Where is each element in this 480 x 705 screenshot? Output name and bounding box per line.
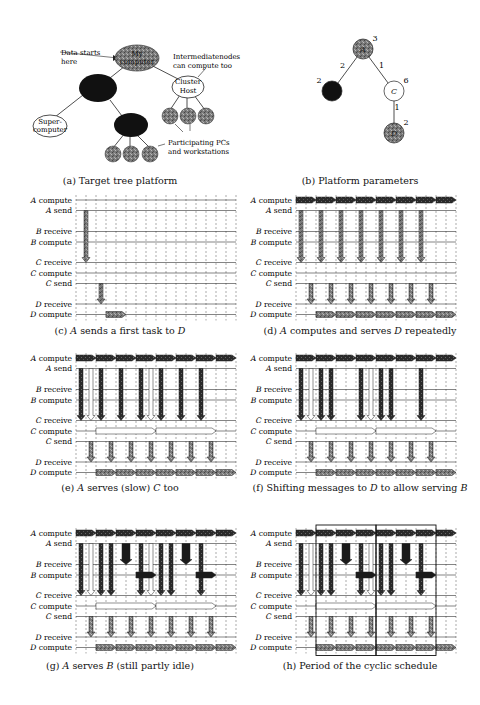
- panel-h-timeline: A computeA sendB receiveB computeC recei…: [249, 525, 456, 656]
- compute-d: [336, 470, 356, 476]
- message-arrow-a-to-c: [357, 211, 365, 263]
- row-label-acompute: A compute: [30, 529, 73, 538]
- compute-d: [216, 645, 236, 651]
- message-arrow-a-to-c: [397, 211, 405, 263]
- row-label-bcompute: B compute: [30, 571, 73, 580]
- node-label: A: [359, 45, 366, 54]
- row-label-bcompute: B compute: [250, 396, 293, 405]
- compute-a: [336, 355, 356, 361]
- compute-a: [76, 530, 96, 536]
- compute-c: [376, 603, 436, 609]
- compute-a: [376, 530, 396, 536]
- row-label-breceive: B receive: [255, 227, 293, 236]
- row-label-dcompute: D compute: [29, 468, 72, 477]
- compute-d: [96, 470, 116, 476]
- message-arrow-c-to-d: [327, 617, 335, 638]
- panel-d-timeline: A computeA sendB receiveB computeC recei…: [249, 195, 456, 321]
- compute-d: [376, 312, 396, 318]
- message-arrow-c-to-d: [207, 617, 215, 638]
- pc-node: [162, 108, 178, 124]
- message-arrow-a-to-c: [417, 369, 425, 421]
- message-arrow-a-to-c: [297, 544, 305, 596]
- row-label-dcompute: D compute: [29, 643, 72, 652]
- node-label: C: [391, 87, 397, 96]
- message-arrow-c-to-d: [107, 442, 115, 463]
- router-node-2: [114, 113, 148, 137]
- message-arrow-c-to-d: [427, 617, 435, 638]
- compute-b: [356, 572, 376, 578]
- message-arrow-a-to-c-slow: [87, 369, 95, 421]
- cluster-host-label-2: Host: [180, 87, 197, 95]
- compute-a: [356, 197, 376, 203]
- row-label-asend: A send: [45, 364, 72, 373]
- compute-a: [336, 530, 356, 536]
- message-arrow-a-to-c: [117, 369, 125, 421]
- message-arrow-a-to-c: [417, 211, 425, 263]
- row-label-breceive: B receive: [255, 385, 293, 394]
- message-arrow-c-to-d: [87, 617, 95, 638]
- message-arrow-a-to-b: [180, 544, 192, 565]
- compute-d: [436, 470, 456, 476]
- compute-a: [296, 355, 316, 361]
- compute-a: [156, 355, 176, 361]
- row-label-ccompute: C compute: [250, 427, 292, 436]
- message-arrow-c-to-d: [367, 284, 375, 305]
- compute-c: [156, 603, 216, 609]
- message-arrow-a-to-c-slow: [307, 544, 315, 596]
- participating-label-2: and workstations: [168, 148, 230, 156]
- row-label-dreceive: D receive: [254, 300, 292, 309]
- node-weight: 6: [403, 76, 408, 85]
- compute-a: [196, 530, 216, 536]
- row-label-creceive: C receive: [36, 258, 73, 267]
- row-label-ccompute: C compute: [30, 269, 72, 278]
- row-label-asend: A send: [45, 539, 72, 548]
- row-label-csend: C send: [266, 437, 293, 446]
- compute-a: [156, 530, 176, 536]
- message-arrow-c-to-d: [347, 442, 355, 463]
- row-label-breceive: B receive: [255, 560, 293, 569]
- figure: My computer Super- computer Cluster Host…: [0, 0, 480, 705]
- compute-b: [196, 572, 216, 578]
- node-weight: 2: [403, 118, 408, 127]
- compute-d: [216, 470, 236, 476]
- message-arrow-c-to-d: [167, 617, 175, 638]
- message-arrow-c-to-d: [87, 442, 95, 463]
- compute-a: [396, 530, 416, 536]
- compute-a: [376, 197, 396, 203]
- compute-a: [436, 197, 456, 203]
- compute-d: [336, 645, 356, 651]
- pc-node: [142, 146, 158, 162]
- message-arrow-a-to-b: [400, 544, 412, 565]
- row-label-bcompute: B compute: [30, 238, 73, 247]
- compute-a: [216, 355, 236, 361]
- row-label-acompute: A compute: [250, 196, 293, 205]
- row-label-asend: A send: [45, 206, 72, 215]
- message-arrow-c-to-d: [127, 617, 135, 638]
- compute-a: [416, 530, 436, 536]
- compute-c: [316, 603, 376, 609]
- pc-node: [198, 108, 214, 124]
- compute-a: [96, 530, 116, 536]
- compute-d: [156, 645, 176, 651]
- message-arrow-a-to-c-slow: [147, 369, 155, 421]
- message-arrow-c-to-d: [347, 284, 355, 305]
- row-label-ccompute: C compute: [250, 602, 292, 611]
- message-arrow-a-to-c-slow: [147, 544, 155, 596]
- message-arrow-c-to-d: [187, 442, 195, 463]
- message-arrow-a-to-c: [317, 544, 325, 596]
- message-arrow-c-to-d: [167, 442, 175, 463]
- compute-d: [396, 645, 416, 651]
- message-arrow-a-to-c: [357, 369, 365, 421]
- message-arrow-a-to-c: [337, 211, 345, 263]
- compute-d: [116, 645, 136, 651]
- message-arrow-c-to-d: [307, 617, 315, 638]
- compute-a: [316, 530, 336, 536]
- message-arrow-c-to-d: [427, 284, 435, 305]
- message-arrow-a-to-c: [357, 544, 365, 596]
- row-label-creceive: C receive: [36, 416, 73, 425]
- compute-a: [296, 530, 316, 536]
- compute-a: [136, 355, 156, 361]
- data-starts-label-2: here: [61, 58, 77, 66]
- message-arrow-a-to-b: [120, 544, 132, 565]
- message-arrow-c-to-d: [147, 442, 155, 463]
